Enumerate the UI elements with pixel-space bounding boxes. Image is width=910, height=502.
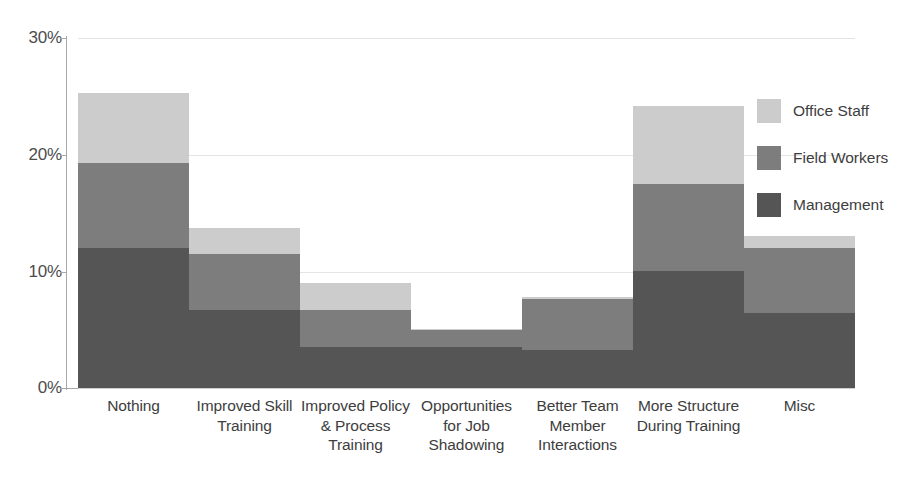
x-axis-label: Opportunities for Job Shadowing bbox=[411, 396, 522, 455]
bar-segment[interactable] bbox=[189, 228, 300, 254]
bar-segment[interactable] bbox=[411, 329, 522, 330]
bar-segment[interactable] bbox=[522, 297, 633, 299]
bar-segment[interactable] bbox=[744, 248, 855, 313]
bar-segment[interactable] bbox=[78, 93, 189, 163]
x-axis-label: Improved Skill Training bbox=[189, 396, 300, 435]
bar-segment[interactable] bbox=[78, 248, 189, 388]
y-axis-line bbox=[66, 36, 67, 390]
bar-segment[interactable] bbox=[633, 271, 744, 388]
bar-segment[interactable] bbox=[522, 350, 633, 389]
stacked-bar-chart: 30% 20% 10% 0% NothingImproved Skill Tra… bbox=[0, 0, 910, 502]
x-axis-label: Misc bbox=[744, 396, 855, 416]
legend-item[interactable]: Office Staff bbox=[757, 99, 888, 123]
legend-swatch-icon bbox=[757, 193, 781, 217]
x-axis-label: Nothing bbox=[78, 396, 189, 416]
legend-label: Office Staff bbox=[793, 102, 869, 120]
bar-segment[interactable] bbox=[300, 310, 411, 347]
legend-swatch-icon bbox=[757, 146, 781, 170]
legend-item[interactable]: Field Workers bbox=[757, 146, 888, 170]
bar-segment[interactable] bbox=[300, 347, 411, 388]
bar-segment[interactable] bbox=[411, 330, 522, 348]
legend-label: Field Workers bbox=[793, 149, 888, 167]
bar-segment[interactable] bbox=[633, 106, 744, 184]
legend-swatch-icon bbox=[757, 99, 781, 123]
bar-segment[interactable] bbox=[744, 313, 855, 388]
bar-segment[interactable] bbox=[633, 184, 744, 272]
y-tick-label-10: 10% bbox=[6, 262, 62, 282]
bar-segment[interactable] bbox=[189, 310, 300, 388]
y-tick-label-0: 0% bbox=[6, 378, 62, 398]
y-tick-label-20: 20% bbox=[6, 145, 62, 165]
bar-segment[interactable] bbox=[78, 163, 189, 248]
bar-segment[interactable] bbox=[522, 299, 633, 349]
chart-legend: Office StaffField WorkersManagement bbox=[757, 99, 888, 240]
legend-label: Management bbox=[793, 196, 883, 214]
x-axis-label: Better Team Member Interactions bbox=[522, 396, 633, 455]
x-axis-label: More Structure During Training bbox=[633, 396, 744, 435]
bar-segment[interactable] bbox=[411, 347, 522, 388]
bar-segment[interactable] bbox=[189, 254, 300, 310]
legend-item[interactable]: Management bbox=[757, 193, 888, 217]
x-axis-label: Improved Policy & Process Training bbox=[300, 396, 411, 455]
bar-segment[interactable] bbox=[300, 283, 411, 310]
y-tick-label-30: 30% bbox=[6, 28, 62, 48]
y-axis: 30% 20% 10% 0% bbox=[0, 0, 62, 502]
